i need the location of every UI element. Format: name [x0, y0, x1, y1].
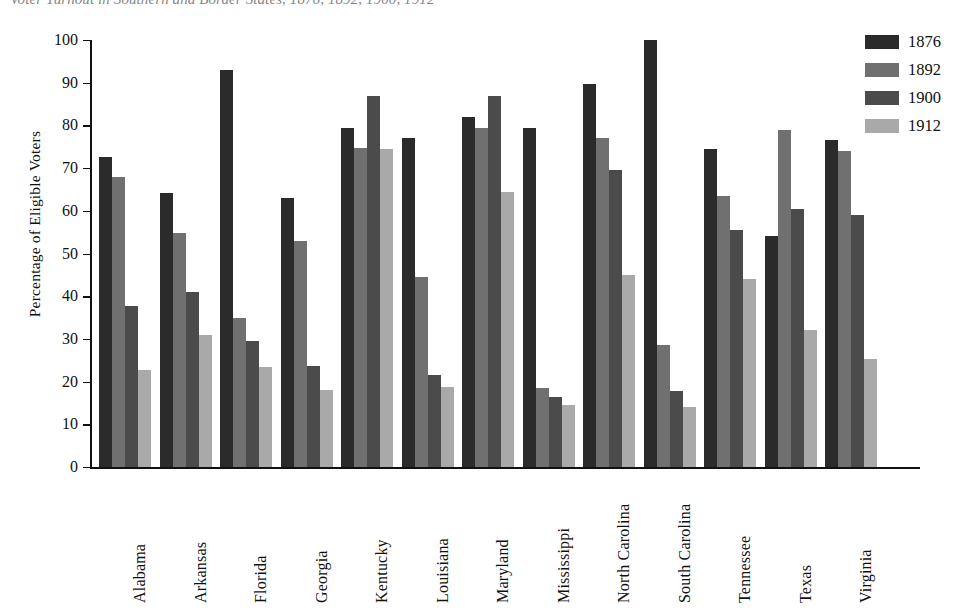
x-tick-label: Florida	[252, 555, 270, 603]
bar[interactable]	[717, 196, 730, 467]
bar-group	[220, 40, 272, 467]
bar[interactable]	[622, 275, 635, 467]
y-tick-label: 80	[62, 117, 78, 133]
bar[interactable]	[138, 370, 151, 467]
legend-item[interactable]: 1900	[865, 86, 951, 110]
x-tick-label: Louisiana	[434, 538, 452, 603]
y-tick-label: 0	[70, 459, 78, 475]
bar[interactable]	[99, 157, 112, 467]
bar[interactable]	[125, 306, 138, 467]
bar[interactable]	[730, 230, 743, 467]
bar[interactable]	[864, 359, 877, 467]
bar[interactable]	[683, 407, 696, 467]
bar[interactable]	[657, 345, 670, 467]
bar-group	[644, 40, 696, 467]
y-tick-label: 30	[62, 331, 78, 347]
bar[interactable]	[536, 388, 549, 467]
bar[interactable]	[233, 318, 246, 467]
legend-label: 1900	[908, 90, 941, 107]
bar[interactable]	[488, 96, 501, 467]
x-tick-label: Tennessee	[736, 536, 754, 603]
bar-group	[99, 40, 151, 467]
bar[interactable]	[415, 277, 428, 467]
y-tick	[83, 211, 90, 212]
bar[interactable]	[523, 128, 536, 467]
bar[interactable]	[341, 128, 354, 467]
bar[interactable]	[778, 130, 791, 467]
legend-swatch-icon	[865, 35, 899, 49]
y-tick-label: 90	[62, 75, 78, 91]
bar[interactable]	[367, 96, 380, 467]
x-tick-label: Maryland	[494, 539, 512, 603]
bar[interactable]	[549, 397, 562, 467]
y-tick	[83, 125, 90, 126]
bar[interactable]	[583, 84, 596, 467]
x-tick-label: Arkansas	[192, 542, 210, 603]
bar[interactable]	[428, 375, 441, 467]
legend: 1876 1892 1900 1912	[865, 30, 951, 142]
bar[interactable]	[743, 279, 756, 467]
bar[interactable]	[838, 151, 851, 467]
bar[interactable]	[320, 390, 333, 467]
bar[interactable]	[804, 330, 817, 467]
bar[interactable]	[644, 40, 657, 467]
x-tick-label: Virginia	[857, 549, 875, 603]
y-tick	[83, 424, 90, 425]
legend-swatch-icon	[865, 91, 899, 105]
bar[interactable]	[220, 70, 233, 467]
bar-group	[281, 40, 333, 467]
legend-label: 1876	[908, 34, 941, 51]
bar-group	[765, 40, 817, 467]
bar-group	[523, 40, 575, 467]
y-tick-label: 60	[62, 203, 78, 219]
legend-item[interactable]: 1876	[865, 30, 951, 54]
bar[interactable]	[112, 177, 125, 467]
bar[interactable]	[380, 149, 393, 467]
bar[interactable]	[562, 405, 575, 467]
y-tick-label: 50	[62, 246, 78, 262]
bar[interactable]	[259, 367, 272, 467]
bar[interactable]	[186, 292, 199, 467]
bar[interactable]	[246, 341, 259, 467]
bar[interactable]	[596, 138, 609, 467]
bar[interactable]	[670, 391, 683, 467]
bar[interactable]	[199, 335, 212, 467]
y-tick-label: 100	[54, 32, 78, 48]
bar[interactable]	[851, 215, 864, 467]
bar[interactable]	[307, 366, 320, 467]
bar[interactable]	[354, 148, 367, 467]
legend-item[interactable]: 1912	[865, 114, 951, 138]
x-axis-line	[90, 467, 920, 469]
bar-group	[462, 40, 514, 467]
bar[interactable]	[825, 140, 838, 468]
bar[interactable]	[791, 209, 804, 467]
y-axis-label: Percentage of Eligible Voters	[26, 34, 44, 414]
x-tick-label: Texas	[797, 565, 815, 603]
bar[interactable]	[402, 138, 415, 467]
bar[interactable]	[475, 128, 488, 467]
bar[interactable]	[765, 236, 778, 467]
bar[interactable]	[462, 117, 475, 467]
bar[interactable]	[704, 149, 717, 467]
y-tick	[83, 168, 90, 169]
x-tick-label: Mississippi	[555, 528, 573, 603]
bar[interactable]	[173, 233, 186, 467]
bar[interactable]	[609, 170, 622, 467]
y-tick	[83, 40, 90, 41]
bar-group	[160, 40, 212, 467]
bar[interactable]	[160, 193, 173, 467]
bar-group	[341, 40, 393, 467]
bar[interactable]	[441, 387, 454, 467]
legend-item[interactable]: 1892	[865, 58, 951, 82]
x-tick-label: Kentucky	[373, 539, 391, 603]
bar-group	[583, 40, 635, 467]
bar[interactable]	[501, 192, 514, 467]
bar[interactable]	[294, 241, 307, 467]
y-axis-line	[90, 40, 92, 467]
y-tick-label: 40	[62, 288, 78, 304]
y-tick-label: 10	[62, 416, 78, 432]
y-tick-label: 20	[62, 374, 78, 390]
bar-chart: Voter Turnout in Southern and Border Sta…	[0, 0, 954, 612]
bar[interactable]	[281, 198, 294, 467]
y-tick	[83, 83, 90, 84]
